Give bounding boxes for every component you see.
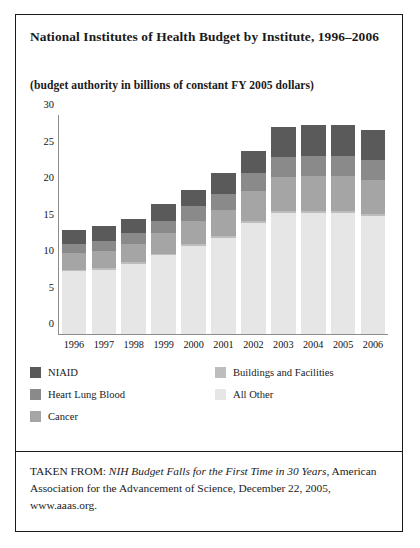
bar-segment [121, 233, 146, 244]
stacked-bar[interactable] [121, 219, 146, 334]
source-note: TAKEN FROM: NIH Budget Falls for the Fir… [30, 463, 386, 514]
stacked-bar[interactable] [211, 173, 236, 334]
bar-column[interactable]: 2002 [241, 115, 266, 334]
legend-item[interactable]: NIAID [30, 367, 78, 378]
legend-label: Heart Lung Blood [48, 389, 125, 400]
bar-column[interactable]: 1997 [92, 115, 117, 334]
bar-column[interactable]: 1999 [151, 115, 176, 334]
stacked-bar[interactable] [62, 230, 87, 334]
bar-segment [241, 151, 266, 173]
legend-item[interactable]: All Other [215, 389, 273, 400]
bar-segment [361, 130, 386, 160]
figure-subtitle: (budget authority in billions of constan… [30, 79, 390, 92]
y-tick-label: 25 [44, 135, 55, 146]
bar-column[interactable]: 1998 [121, 115, 146, 334]
stacked-bar[interactable] [241, 151, 266, 334]
x-tick-label: 2000 [183, 339, 203, 350]
bar-column[interactable]: 1996 [62, 115, 87, 334]
bar-segment [62, 271, 87, 334]
legend-swatch [30, 367, 41, 378]
bar-segment [92, 226, 117, 241]
bar-segment [271, 127, 296, 156]
bar-segment [151, 221, 176, 233]
stacked-bar[interactable] [151, 204, 176, 334]
figure-frame: National Institutes of Health Budget by … [15, 14, 403, 532]
x-tick-label: 1999 [153, 339, 173, 350]
y-tick-label: 30 [44, 99, 55, 110]
bar-segment [151, 204, 176, 221]
bar-segment [241, 191, 266, 221]
bar-segment [211, 194, 236, 210]
bar-segment [181, 190, 206, 207]
bar-column[interactable]: 2000 [181, 115, 206, 334]
bar-segment [331, 125, 356, 156]
x-tick-label: 2002 [243, 339, 263, 350]
legend-label: All Other [233, 389, 273, 400]
bar-column[interactable]: 2005 [331, 115, 356, 334]
bar-segment [361, 160, 386, 180]
bar-segment [301, 156, 326, 176]
stacked-bar[interactable] [361, 130, 386, 334]
bar-segment [92, 251, 117, 269]
bar-segment [62, 253, 87, 270]
bar-segment [181, 221, 206, 244]
bar-segment [361, 216, 386, 334]
stacked-bar[interactable] [301, 125, 326, 334]
legend-label: Buildings and Facilities [233, 367, 334, 378]
y-tick-label: 20 [44, 172, 55, 183]
legend-swatch [30, 411, 41, 422]
bar-segment [361, 180, 386, 214]
bar-segment [92, 241, 117, 251]
bar-segment [62, 244, 87, 253]
bar-column[interactable]: 2004 [301, 115, 326, 334]
stacked-bar[interactable] [331, 125, 356, 334]
bar-segment [271, 157, 296, 177]
stacked-bar[interactable] [271, 127, 296, 334]
legend-label: Cancer [48, 411, 78, 422]
bar-segment [331, 213, 356, 334]
bar-group: 1996199719981999200020012002200320042005… [59, 115, 388, 334]
stacked-bar[interactable] [92, 226, 117, 334]
bar-segment [271, 177, 296, 211]
chart-legend: NIAIDHeart Lung BloodCancerBuildings and… [30, 367, 386, 445]
x-tick-label: 1996 [64, 339, 84, 350]
bar-segment [331, 156, 356, 176]
bar-column[interactable]: 2001 [211, 115, 236, 334]
legend-swatch [215, 367, 226, 378]
bar-column[interactable]: 2006 [361, 115, 386, 334]
legend-item[interactable]: Buildings and Facilities [215, 367, 334, 378]
source-title: NIH Budget Falls for the First Time in 3… [109, 465, 327, 477]
legend-item[interactable]: Cancer [30, 411, 78, 422]
bar-segment [301, 176, 326, 210]
stacked-bar[interactable] [181, 189, 206, 334]
stacked-bar-chart: 051015202530 199619971998199920002001200… [24, 107, 396, 359]
figure-title: National Institutes of Health Budget by … [30, 27, 382, 46]
y-tick-label: 0 [49, 318, 54, 329]
y-tick-label: 10 [44, 245, 55, 256]
bar-segment [151, 233, 176, 253]
x-tick-label: 2003 [273, 339, 293, 350]
legend-swatch [215, 389, 226, 400]
bar-segment [151, 255, 176, 334]
bar-segment [62, 230, 87, 243]
legend-swatch [30, 389, 41, 400]
x-tick-label: 1997 [94, 339, 114, 350]
x-tick-label: 2001 [213, 339, 233, 350]
bar-segment [241, 223, 266, 334]
bar-segment [121, 264, 146, 334]
bar-segment [211, 173, 236, 194]
bar-segment [331, 176, 356, 210]
bar-segment [241, 173, 266, 191]
x-tick-label: 2006 [363, 339, 383, 350]
bar-column[interactable]: 2003 [271, 115, 296, 334]
bar-segment [92, 270, 117, 334]
legend-item[interactable]: Heart Lung Blood [30, 389, 125, 400]
x-tick-label: 1998 [124, 339, 144, 350]
y-tick-label: 5 [49, 281, 54, 292]
x-tick-label: 2004 [303, 339, 323, 350]
bar-segment [301, 125, 326, 156]
bar-segment [181, 246, 206, 334]
divider [16, 451, 402, 452]
bar-segment [211, 238, 236, 334]
bar-segment [301, 213, 326, 334]
